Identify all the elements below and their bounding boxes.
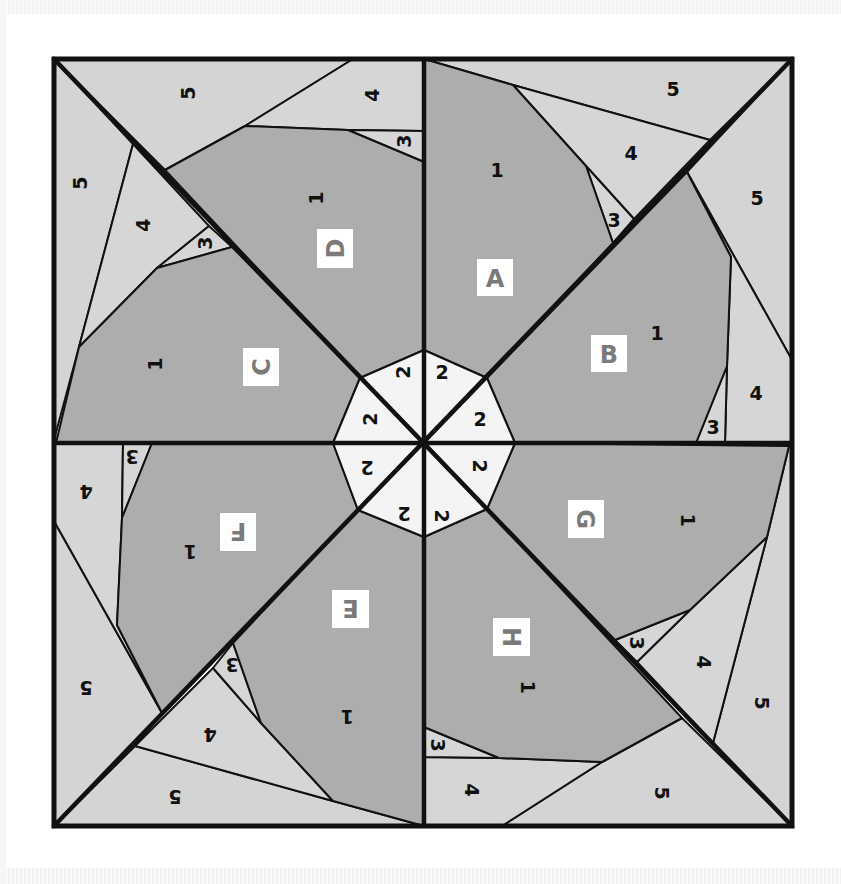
piece-number-g5: 5 — [751, 696, 773, 709]
section-label-g: G — [568, 500, 604, 538]
piece-number-g3: 3 — [626, 636, 648, 649]
piece-number-h4: 4 — [461, 783, 483, 796]
piece-number-f5: 5 — [79, 677, 92, 699]
piece-number-e1: 1 — [340, 706, 353, 728]
piece-number-b4: 4 — [749, 382, 762, 404]
piece-number-f2: 2 — [360, 457, 373, 479]
piece-number-d3: 3 — [393, 134, 415, 147]
piece-number-h2: 2 — [431, 509, 453, 522]
piece-number-b3: 3 — [706, 416, 719, 438]
piece-number-d1: 1 — [305, 191, 327, 204]
piece-number-g4: 4 — [693, 655, 715, 668]
piece-number-f1: 1 — [183, 541, 196, 563]
piece-number-h5: 5 — [651, 786, 673, 799]
section-letter: D — [322, 239, 350, 259]
piece-number-a3: 3 — [607, 209, 620, 231]
piece-number-d4: 4 — [361, 88, 383, 101]
piece-number-a2: 2 — [435, 361, 448, 383]
piece-number-g1: 1 — [677, 513, 699, 526]
piece-number-f3: 3 — [125, 446, 138, 468]
piece-number-h3: 3 — [427, 738, 449, 751]
piece-number-c5: 5 — [69, 176, 91, 189]
section-label-b: B — [591, 335, 627, 372]
piece-number-c1: 1 — [144, 357, 166, 370]
piece-number-h1: 1 — [517, 680, 539, 693]
section-label-a: A — [477, 259, 513, 296]
section-label-e: E — [332, 590, 369, 628]
piece-number-d2: 2 — [392, 365, 414, 378]
piece-number-g2: 2 — [469, 459, 491, 472]
piece-number-d5: 5 — [177, 86, 199, 99]
piece-number-c4: 4 — [132, 218, 154, 231]
piece-number-b5: 5 — [750, 187, 763, 209]
section-letter: C — [248, 358, 276, 376]
section-label-d: D — [317, 229, 353, 268]
piece-number-e3: 3 — [225, 654, 238, 676]
piece-number-e2: 2 — [397, 503, 410, 525]
piece-number-c3: 3 — [194, 236, 216, 249]
section-letter: H — [497, 627, 525, 647]
section-letter: B — [600, 341, 618, 369]
piece-number-e4: 4 — [203, 724, 216, 746]
piece-number-e5: 5 — [168, 786, 181, 808]
piece-number-b2: 2 — [473, 408, 486, 430]
section-letter: A — [486, 265, 505, 293]
section-label-h: H — [493, 618, 530, 656]
section-dividers — [54, 59, 792, 826]
piece-number-b1: 1 — [650, 322, 663, 344]
section-label-c: C — [243, 348, 279, 386]
piece-number-a4: 4 — [624, 142, 637, 164]
quilt-block-diagram: 54312A54312B54312C54312D54312E54312F5431… — [0, 0, 841, 884]
piece-number-a5: 5 — [666, 78, 679, 100]
piece-number-c2: 2 — [359, 412, 381, 425]
section-label-f: F — [220, 513, 256, 551]
piece-number-a1: 1 — [490, 159, 503, 181]
piece-number-f4: 4 — [79, 481, 92, 503]
section-letter: E — [342, 594, 358, 622]
section-letter: F — [230, 517, 246, 545]
section-letter: G — [571, 509, 599, 529]
